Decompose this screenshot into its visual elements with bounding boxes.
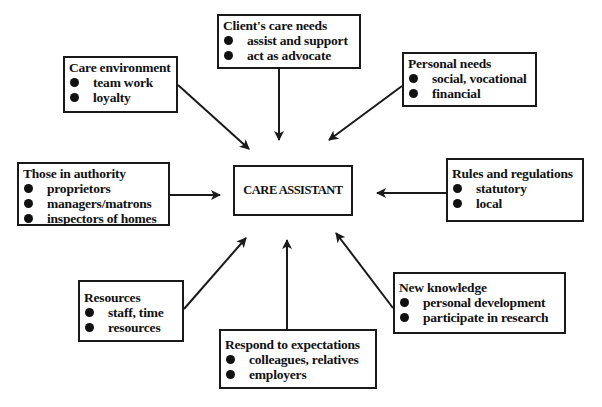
list-item: inspectors of homes (23, 211, 165, 226)
item-text: proprietors (47, 181, 111, 196)
list-item: team work (69, 75, 173, 90)
box-title: Client's care needs (223, 18, 356, 33)
item-text: inspectors of homes (47, 211, 156, 226)
box-title: Care environment (69, 60, 173, 75)
those-in-authority-box: Those in authority proprietors managers/… (17, 162, 170, 226)
list-item: statutory (452, 181, 579, 196)
bullet-icon (85, 323, 94, 332)
resources-box: Resources staff, time resources (78, 280, 184, 342)
care-assistant-box: CARE ASSISTANT (233, 165, 353, 216)
client-care-needs-box: Client's care needs assist and support a… (217, 14, 361, 69)
bullet-icon (224, 51, 233, 60)
item-text: resources (108, 320, 160, 335)
list-item: colleagues, relatives (225, 352, 372, 367)
bullet-icon (226, 370, 235, 379)
list-item: staff, time (84, 305, 179, 320)
bullet-icon (224, 36, 233, 45)
arrow-personal (329, 86, 402, 140)
bullet-icon (409, 89, 418, 98)
item-text: loyalty (93, 90, 131, 105)
item-text: statutory (476, 181, 527, 196)
list-item: personal development (399, 295, 561, 310)
bullet-icon (70, 93, 79, 102)
item-text: personal development (423, 295, 545, 310)
list-item: social, vocational (408, 71, 532, 86)
bullet-icon (453, 199, 462, 208)
list-item: assist and support (223, 33, 356, 48)
box-title: Personal needs (408, 56, 532, 71)
care-environment-box: Care environment team work loyalty (63, 56, 178, 113)
item-text: employers (249, 367, 306, 382)
list-item: proprietors (23, 181, 165, 196)
item-text: colleagues, relatives (249, 352, 359, 367)
bullet-icon (24, 199, 33, 208)
box-title: Rules and regulations (452, 166, 579, 181)
item-text: local (476, 196, 502, 211)
item-text: assist and support (247, 33, 348, 48)
list-item: financial (408, 86, 532, 101)
bullet-icon (226, 355, 235, 364)
item-text: act as advocate (247, 48, 331, 63)
bullet-icon (24, 184, 33, 193)
box-title: Those in authority (23, 166, 165, 181)
respond-to-expectations-box: Respond to expectations colleagues, rela… (219, 329, 377, 389)
personal-needs-box: Personal needs social, vocational financ… (402, 52, 537, 107)
bullet-icon (85, 308, 94, 317)
item-text: team work (93, 75, 153, 90)
box-title: Respond to expectations (225, 337, 372, 352)
box-title: Resources (84, 290, 179, 305)
arrow-environment (178, 85, 249, 149)
arrow-knowledge (336, 233, 393, 308)
bullet-icon (409, 74, 418, 83)
bullet-icon (400, 298, 409, 307)
item-text: social, vocational (432, 71, 527, 86)
item-text: participate in research (423, 310, 548, 325)
new-knowledge-box: New knowledge personal development parti… (393, 272, 566, 334)
care-assistant-label: CARE ASSISTANT (243, 183, 342, 198)
bullet-icon (400, 313, 409, 322)
list-item: participate in research (399, 310, 561, 325)
box-title: New knowledge (399, 280, 561, 295)
list-item: employers (225, 367, 372, 382)
bullet-icon (70, 78, 79, 87)
rules-and-regulations-box: Rules and regulations statutory local (446, 158, 584, 222)
bullet-icon (24, 214, 33, 223)
list-item: act as advocate (223, 48, 356, 63)
list-item: resources (84, 320, 179, 335)
item-text: managers/matrons (47, 196, 152, 211)
list-item: local (452, 196, 579, 211)
item-text: financial (432, 86, 480, 101)
item-text: staff, time (108, 305, 164, 320)
list-item: loyalty (69, 90, 173, 105)
arrow-resources (184, 238, 246, 309)
bullet-icon (453, 184, 462, 193)
list-item: managers/matrons (23, 196, 165, 211)
